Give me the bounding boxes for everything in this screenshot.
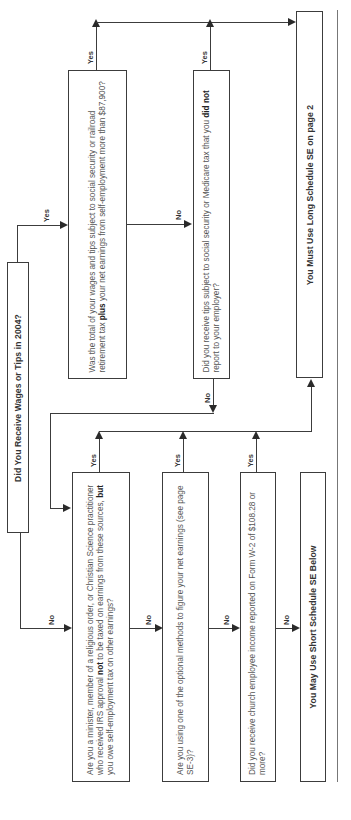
yes-label: Yes [173, 454, 182, 467]
connector-line [99, 431, 312, 432]
connector-line [130, 628, 155, 629]
start-question-label: Did You Receive Wages or Tips in 2004? [13, 314, 23, 482]
arrow-right-icon [292, 624, 300, 632]
question-minister-text: Are you a minister, member of a religiou… [86, 479, 116, 775]
connector-line [256, 436, 257, 472]
connector-line [96, 22, 97, 70]
arrow-up-icon [95, 431, 103, 439]
connector-line [99, 436, 100, 472]
arrow-up-icon [307, 379, 315, 387]
arrow-right-icon [184, 220, 192, 228]
no-label: No [144, 615, 153, 625]
result-short-schedule-box: You May Use Short Schedule SE Below [300, 472, 326, 782]
result-long-schedule-label: You Must Use Long Schedule SE on page 2 [305, 104, 315, 284]
connector-line [17, 225, 18, 262]
connector-line [17, 225, 60, 226]
connector-line [183, 436, 184, 472]
yes-label: Yes [246, 454, 255, 467]
question-optional-methods-box: Are you using one of the optional method… [162, 472, 209, 782]
question-unreported-tips-box: Did you receive tips subject to social s… [193, 70, 230, 379]
connector-line [20, 628, 64, 629]
yes-label: Yes [89, 454, 98, 467]
connector-line [127, 224, 184, 225]
arrow-right-icon [63, 504, 71, 512]
question-church-income-text: Did you receive church employee income r… [248, 479, 268, 775]
question-minister-box: Are you a minister, member of a religiou… [72, 472, 130, 782]
yes-label: Yes [200, 51, 209, 64]
connector-line [213, 379, 214, 407]
arrow-up-icon [206, 19, 214, 27]
arrow-up-icon [179, 431, 187, 439]
arrow-right-icon [288, 18, 296, 26]
question-church-income-box: Did you receive church employee income r… [240, 472, 276, 782]
no-label: No [282, 615, 291, 625]
arrow-right-icon [60, 221, 68, 229]
connector-line [50, 413, 214, 414]
question-total-wages-box: Was the total of your wages and tips sub… [68, 70, 127, 379]
no-label: No [47, 615, 56, 625]
result-short-schedule-label: You May Use Short Schedule SE Below [308, 545, 318, 708]
no-label: No [174, 210, 183, 220]
connector-line [20, 533, 21, 628]
no-label: No [203, 393, 212, 403]
connector-line [276, 628, 293, 629]
no-label: No [222, 615, 231, 625]
connector-line [210, 22, 211, 70]
connector-line [50, 413, 51, 508]
question-unreported-tips-text: Did you receive tips subject to social s… [202, 77, 222, 372]
arrow-down-icon [209, 405, 217, 413]
connector-line [311, 386, 312, 432]
arrow-right-icon [232, 624, 240, 632]
arrow-right-icon [64, 624, 72, 632]
yes-label: Yes [86, 51, 95, 64]
page-divider-rule [337, 10, 338, 782]
result-long-schedule-box: You Must Use Long Schedule SE on page 2 [296, 11, 323, 378]
connector-line [209, 628, 233, 629]
connector-line [96, 22, 288, 23]
arrow-up-icon [252, 431, 260, 439]
connector-line [50, 508, 64, 509]
question-total-wages-text: Was the total of your wages and tips sub… [88, 77, 108, 372]
question-optional-methods-text: Are you using one of the optional method… [176, 479, 196, 775]
yes-label: Yes [42, 209, 51, 222]
start-question-box: Did You Receive Wages or Tips in 2004? [7, 262, 29, 533]
